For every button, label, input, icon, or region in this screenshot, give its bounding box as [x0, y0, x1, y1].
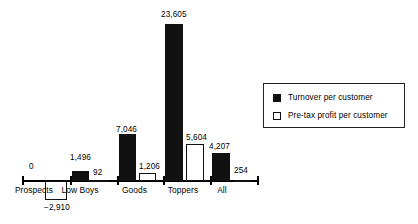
bar-goods-pretax [139, 173, 156, 181]
category-label-all: All [207, 185, 237, 195]
bar-all-pretax [233, 180, 251, 182]
axis-tick-end [257, 176, 259, 185]
value-label-prospects-pretax: −2,910 [44, 203, 70, 212]
bar-toppers-pretax [186, 144, 204, 181]
legend-item-turnover: Turnover per customer [273, 93, 373, 102]
legend-item-pretax: Pre-tax profit per customer [273, 111, 388, 120]
plot-area: 0 −2,910 Prospects 1,496 92 Low Boys 7,0… [0, 0, 270, 224]
axis-tick-prospects [22, 176, 24, 185]
value-label-all-turnover: 4,207 [209, 142, 230, 151]
value-label-low-boys-turnover: 1,496 [70, 153, 91, 162]
value-label-low-boys-pretax: 92 [93, 168, 102, 177]
value-label-goods-turnover: 7,046 [116, 125, 137, 134]
legend-label-turnover: Turnover per customer [288, 93, 373, 102]
category-label-toppers: Toppers [157, 185, 209, 195]
bar-toppers-turnover [165, 24, 183, 181]
value-label-toppers-turnover: 23,605 [161, 10, 187, 19]
category-label-low-boys: Low Boys [55, 185, 105, 195]
bar-all-turnover [212, 153, 230, 181]
bar-low-boys-pretax [92, 180, 109, 182]
legend-swatch-filled-square-icon [273, 94, 281, 102]
value-label-toppers-pretax: 5,604 [186, 133, 207, 142]
bar-low-boys-turnover [72, 171, 89, 181]
legend-label-pretax: Pre-tax profit per customer [288, 111, 388, 120]
grouped-bar-chart: 0 −2,910 Prospects 1,496 92 Low Boys 7,0… [0, 0, 418, 224]
value-label-prospects-turnover: 0 [29, 162, 34, 171]
chart-legend: Turnover per customer Pre-tax profit per… [263, 83, 405, 128]
category-label-goods: Goods [112, 185, 157, 195]
value-label-all-pretax: 254 [234, 166, 248, 175]
value-label-goods-pretax: 1,206 [139, 162, 160, 171]
bar-goods-turnover [119, 134, 136, 181]
legend-swatch-hollow-square-icon [273, 112, 281, 120]
